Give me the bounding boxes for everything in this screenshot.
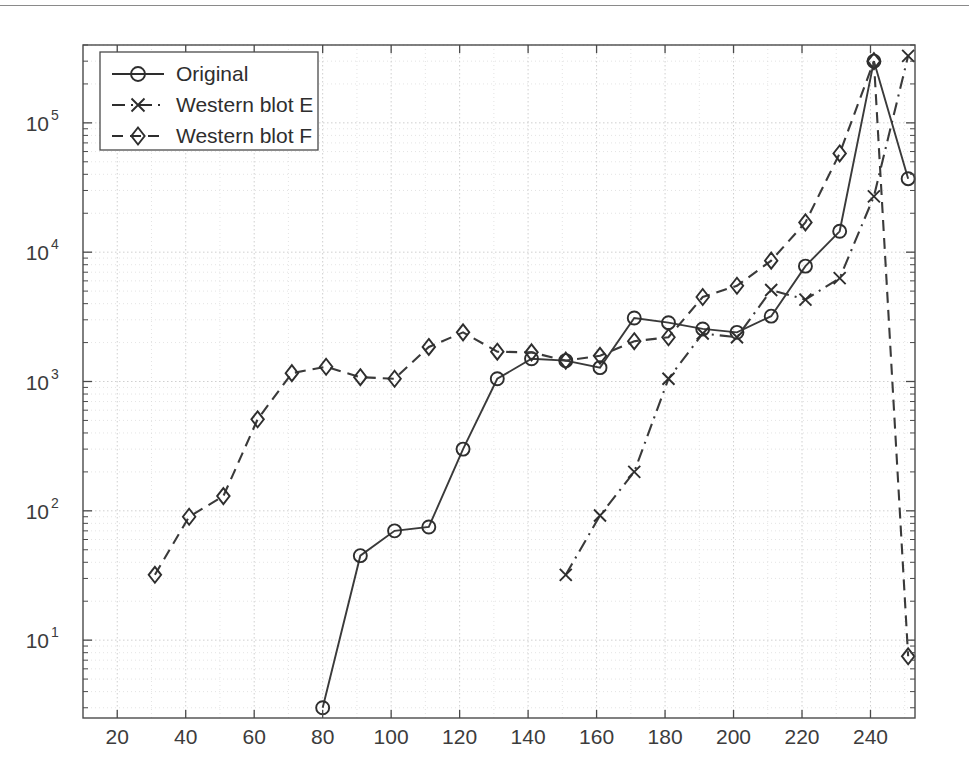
x-tick-label: 180 [648,725,683,748]
y-tick-label-exponent: 2 [51,495,59,511]
marker-x [628,466,640,478]
x-tick-label: 20 [106,725,129,748]
axis-tick-labels: 2040608010012014016018020022024010110210… [26,107,888,748]
y-tick-label-mantissa: 10 [26,112,49,135]
y-tick-label: 102 [26,495,59,523]
y-tick-label-mantissa: 10 [26,500,49,523]
y-tick-label: 104 [26,236,59,264]
legend-label: Original [176,62,248,85]
legend-label: Western blot F [176,124,312,147]
series-line [566,56,908,575]
y-tick-label: 105 [26,107,59,135]
chart-page: 2040608010012014016018020022024010110210… [0,0,969,781]
y-tick-label-exponent: 1 [51,624,59,640]
x-tick-label: 200 [716,725,751,748]
y-tick-label-exponent: 4 [51,236,59,252]
marker-x [594,510,606,522]
legend-label: Western blot E [176,93,313,116]
chart-legend[interactable]: OriginalWestern blot EWestern blot F [100,52,318,150]
marker-diamond [217,488,229,504]
x-tick-label: 60 [243,725,266,748]
x-tick-label: 160 [579,725,614,748]
marker-x [799,294,811,306]
y-tick-label: 103 [26,366,59,394]
x-tick-label: 240 [853,725,888,748]
marker-diamond [354,369,366,385]
marker-x [560,569,572,581]
marker-x [662,373,674,385]
marker-diamond [833,145,845,161]
marker-x [765,284,777,296]
y-tick-label-mantissa: 10 [26,371,49,394]
x-tick-label: 140 [511,725,546,748]
x-tick-label: 80 [311,725,334,748]
x-tick-label: 220 [784,725,819,748]
y-tick-label-mantissa: 10 [26,629,49,652]
series-1 [316,55,914,715]
y-tick-label-exponent: 5 [51,107,59,123]
chart-canvas: 2040608010012014016018020022024010110210… [0,0,969,781]
y-tick-label: 101 [26,624,59,652]
marker-x [834,272,846,284]
series-line [323,61,908,708]
x-tick-label: 40 [174,725,197,748]
y-tick-label-mantissa: 10 [26,241,49,264]
log-line-chart: 2040608010012014016018020022024010110210… [0,0,969,781]
x-tick-label: 100 [374,725,409,748]
x-tick-label: 120 [442,725,477,748]
y-tick-label-exponent: 3 [51,366,59,382]
